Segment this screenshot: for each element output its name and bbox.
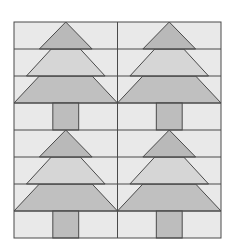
tree-trunk — [53, 103, 79, 130]
pine-tree-quilt-diagram — [0, 0, 235, 250]
tree-trunk — [53, 211, 79, 238]
tree-trunk — [156, 103, 182, 130]
tree-trunk — [156, 211, 182, 238]
